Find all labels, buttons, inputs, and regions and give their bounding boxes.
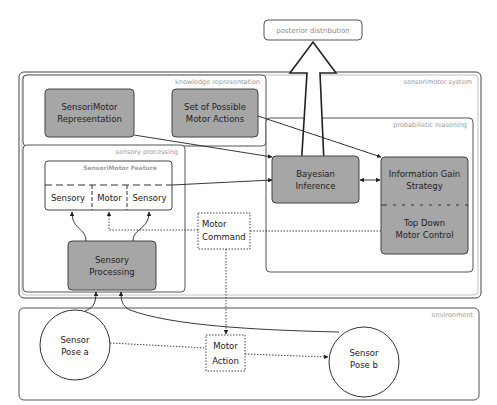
posterior-distribution-box: posterior distribution (264, 20, 362, 40)
svg-text:Sensor: Sensor (349, 348, 379, 358)
group-label-knowledge-representation: knowledge representation (175, 78, 260, 86)
feature-cell-sensory-left: Sensory (51, 193, 85, 203)
svg-text:Motor Actions: Motor Actions (186, 114, 245, 124)
svg-text:Pose a: Pose a (61, 347, 89, 357)
node-sensor-pose-b: Sensor Pose b (329, 327, 399, 397)
node-possible-motor-actions: Set of Possible Motor Actions (172, 89, 258, 137)
group-label-sensory-processing: sensory processing (116, 148, 178, 156)
svg-text:Action: Action (212, 356, 239, 366)
group-label-sensorimotor-system: sensorimotor system (404, 78, 472, 86)
svg-text:Motor: Motor (213, 341, 238, 351)
node-sensor-pose-a: Sensor Pose a (40, 310, 110, 380)
node-sensorimotor-feature: SensoriMotor Feature Sensory Motor Senso… (45, 161, 172, 210)
information-gain-label: Information Gain (389, 169, 460, 179)
sensorimotor-feature-title: SensoriMotor Feature (83, 164, 157, 171)
feature-cell-sensory-right: Sensory (132, 193, 166, 203)
node-motor-action: Motor Action (206, 335, 245, 371)
svg-text:Strategy: Strategy (406, 181, 442, 191)
svg-text:Set of Possible: Set of Possible (184, 102, 246, 112)
svg-text:SensoriMotor: SensoriMotor (61, 102, 118, 112)
svg-text:Representation: Representation (57, 114, 122, 124)
svg-text:Sensory: Sensory (95, 255, 129, 265)
svg-text:Sensor: Sensor (60, 335, 90, 345)
svg-text:Motor Control: Motor Control (396, 230, 454, 240)
svg-text:Motor: Motor (202, 219, 227, 229)
node-bayesian-inference: Bayesian Inference (272, 156, 359, 203)
svg-text:Processing: Processing (89, 267, 134, 277)
node-information-gain-top-down: Information Gain Strategy Top Down Motor… (381, 157, 468, 254)
group-label-probabilistic-reasoning: probabilistic reasoning (393, 121, 467, 129)
architecture-diagram: posterior distribution sensorimotor syst… (0, 0, 497, 405)
svg-text:Bayesian: Bayesian (296, 169, 335, 179)
top-down-control-label: Top Down (403, 218, 445, 228)
node-motor-command: Motor Command (198, 213, 250, 249)
svg-text:Inference: Inference (296, 181, 336, 191)
svg-text:Pose b: Pose b (350, 360, 378, 370)
svg-text:Command: Command (202, 232, 246, 242)
group-label-environment: environment (432, 311, 474, 319)
node-sensorimotor-representation: SensoriMotor Representation (45, 89, 134, 137)
node-sensory-processing: Sensory Processing (68, 241, 156, 290)
feature-cell-motor: Motor (97, 193, 122, 203)
posterior-distribution-label: posterior distribution (276, 27, 350, 35)
